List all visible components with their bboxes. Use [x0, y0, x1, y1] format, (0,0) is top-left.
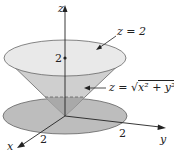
x-axis-label: x: [7, 141, 13, 152]
z-axis-label: z: [58, 3, 64, 14]
plane-label: z = 2: [117, 26, 146, 37]
y-axis-label: y: [160, 134, 166, 145]
y-tick-label: 2: [119, 128, 126, 139]
z-tick-label: 2: [55, 53, 62, 64]
cone-label: z = √x² + y²: [109, 82, 174, 93]
x-tick-label: 2: [40, 134, 47, 145]
z-tick-point: [63, 56, 66, 59]
cone-label-prefix: z =: [109, 81, 131, 94]
sqrt-sign: √: [131, 81, 138, 94]
cone-label-radicand: x² + y²: [138, 80, 174, 94]
